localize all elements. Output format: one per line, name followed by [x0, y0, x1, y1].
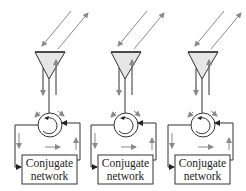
network-label-line1: Conjugate [102, 157, 149, 170]
network-label-line2: network [107, 170, 145, 182]
loop-line-right [138, 123, 156, 160]
antenna-icon [111, 52, 141, 79]
loop-line-right [62, 123, 80, 160]
antenna-icon [35, 52, 65, 79]
reflected-wave-arrow [58, 13, 88, 49]
reflected-wave-arrow [211, 13, 241, 49]
incident-wave-arrow [118, 11, 147, 46]
network-label-line2: network [31, 170, 69, 182]
reflected-wave-arrow [134, 13, 164, 49]
network-label-line1: Conjugate [179, 157, 226, 170]
unit-1: Conjugate network [15, 11, 88, 184]
incident-wave-arrow [42, 11, 71, 46]
network-label-line1: Conjugate [26, 157, 73, 170]
unit-3: Conjugate network [168, 11, 241, 184]
antenna-icon [188, 52, 218, 79]
unit-2: Conjugate network [91, 11, 164, 184]
incident-wave-arrow [195, 11, 224, 46]
loop-line-right [215, 123, 233, 160]
retrodirective-array-diagram: Conjugate network Conjugate network [0, 0, 246, 191]
network-label-line2: network [184, 170, 222, 182]
